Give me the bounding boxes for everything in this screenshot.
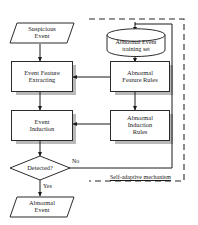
detected-label: Detected? <box>27 165 53 172</box>
training-set-line2: training set <box>115 46 156 53</box>
node-detected-decision: Detected? <box>9 155 71 181</box>
abnormal-feature-rules-line2: Feature Rules <box>122 77 157 84</box>
node-abnormal-feature-rules: Abnormal Feature Rules <box>110 61 170 92</box>
node-abnormal-induction-rules: Abnormal Induction Rules <box>110 110 170 141</box>
abnormal-event-output-line2: Event <box>29 207 55 214</box>
node-training-set-database: Abnormal Event training set <box>106 28 166 57</box>
node-suspicious-event: Suspicious Event <box>9 22 75 44</box>
flowchart-canvas: Suspicious Event Event Feature Extractin… <box>0 0 198 225</box>
self-adaptive-mechanism-label: Self-adaptive mechanism <box>110 174 171 180</box>
node-event-induction: Event Induction <box>11 110 73 141</box>
edge-label-yes: Yes <box>43 183 52 189</box>
abnormal-induction-rules-line3: Rules <box>127 129 153 136</box>
suspicious-event-line2: Event <box>28 33 56 40</box>
edge-label-no: No <box>72 158 79 164</box>
node-event-feature-extracting: Event Feature Extracting <box>11 61 73 92</box>
node-abnormal-event-output: Abnormal Event <box>9 196 75 218</box>
event-feature-extracting-line2: Extracting <box>24 77 60 84</box>
event-induction-line2: Induction <box>30 126 55 133</box>
